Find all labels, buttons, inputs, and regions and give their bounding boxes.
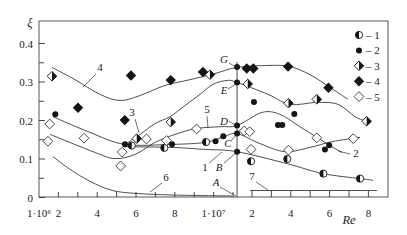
data-point-series-3 (284, 98, 294, 108)
x-tick-label: 6 (133, 207, 139, 219)
data-point-series-2 (279, 122, 285, 128)
annotation-label: 7 (249, 170, 255, 182)
half-diamond-fill (52, 71, 57, 81)
data-point-series-4 (283, 61, 293, 71)
x-tick-label: 1·10⁶ (27, 207, 51, 219)
annotation-label: C (224, 137, 232, 149)
y-tick-label: 0.2 (19, 115, 33, 127)
data-point-series-4 (126, 70, 136, 80)
x-tick-label: 1·10⁷ (202, 207, 226, 219)
data-point-series-2 (122, 141, 128, 147)
annotation-label: B (216, 161, 223, 173)
legend-item-1: – 1 (355, 29, 379, 41)
filled-diamond-icon (166, 75, 176, 85)
filled-circle-icon (234, 131, 240, 137)
filled-circle-icon (122, 141, 128, 147)
half-diamond-fill (171, 117, 176, 127)
data-point-series-5 (142, 134, 152, 144)
legend-marker (354, 61, 364, 71)
legend-item-5: – 5 (354, 91, 380, 103)
annotation-label: 6 (163, 171, 169, 183)
legend-marker (355, 31, 362, 38)
open-diamond-icon (348, 134, 358, 144)
open-diamond-icon (43, 136, 53, 146)
y-tick-label: 0.3 (19, 76, 33, 88)
open-diamond-icon (312, 133, 322, 143)
x-tick-label: 4 (288, 207, 294, 219)
data-point-series-5 (284, 145, 294, 155)
annotation-label: G (220, 53, 228, 65)
filled-diamond-icon (73, 103, 83, 113)
annotation-leader (224, 153, 236, 163)
filled-circle-icon (251, 99, 257, 105)
data-point-series-1 (247, 158, 254, 165)
legend-label: – 3 (365, 60, 380, 72)
annotation-leader (220, 187, 236, 196)
data-point-series-1 (128, 142, 135, 149)
half-diamond-fill (359, 61, 364, 71)
data-point-series-4 (166, 75, 176, 85)
filled-circle-icon (234, 64, 240, 70)
half-diamond-fill (210, 70, 215, 80)
open-diamond-icon (192, 124, 202, 134)
data-point-series-2 (213, 138, 219, 144)
x-tick-label: 4 (94, 207, 100, 219)
curve-2 (53, 117, 360, 152)
legend-item-2: – 2 (356, 44, 380, 56)
data-point-series-4 (73, 103, 83, 113)
legend-label: – 1 (365, 29, 380, 41)
data-point-series-5 (79, 133, 89, 143)
open-diamond-icon (117, 147, 127, 157)
data-point-series-5 (348, 134, 358, 144)
legend-marker (354, 76, 364, 86)
filled-diamond-icon (126, 70, 136, 80)
filled-diamond-icon (283, 61, 293, 71)
data-point-series-2 (52, 111, 58, 117)
open-diamond-icon (79, 133, 89, 143)
data-point-series-2 (234, 131, 240, 137)
annotation-label: 1 (202, 161, 208, 173)
data-point-series-3 (362, 116, 372, 126)
y-axis-title: ξ (27, 16, 33, 30)
open-diamond-icon (116, 161, 126, 171)
annotation-leader (256, 182, 268, 190)
filled-circle-icon (213, 138, 219, 144)
data-point-series-2 (251, 99, 257, 105)
open-diamond-icon (246, 144, 256, 154)
data-point-series-1 (284, 155, 291, 162)
legend-item-3: – 3 (354, 60, 380, 72)
legend-label: – 2 (365, 44, 380, 56)
filled-circle-icon (291, 111, 297, 117)
data-point-series-3 (47, 71, 57, 81)
annotation-label: 5 (204, 103, 210, 115)
filled-diamond-icon (248, 63, 258, 73)
annotation-label: E (220, 84, 228, 96)
data-point-series-3 (166, 117, 176, 127)
data-point-series-2 (234, 64, 240, 70)
data-point-series-2 (326, 142, 332, 148)
open-diamond-icon (142, 134, 152, 144)
annotation-label: 2 (353, 147, 359, 159)
y-tick-label: 0 (28, 192, 34, 204)
data-point-series-5 (192, 124, 202, 134)
annotation-label: 4 (97, 61, 103, 73)
legend-item-4: – 4 (354, 75, 380, 87)
data-point-series-5 (246, 144, 256, 154)
annotation-leader (150, 183, 162, 192)
x-tick-label: 8 (366, 207, 372, 219)
annotation-label: D (219, 115, 228, 127)
y-tick-label: 0.4 (19, 38, 33, 50)
annotation-leader (338, 151, 350, 154)
open-diamond-icon (354, 92, 364, 102)
filled-circle-icon (52, 111, 58, 117)
filled-circle-icon (326, 142, 332, 148)
chart-figure: 00.10.20.30.4 1·10⁶24681·10⁷2468 435GEDC… (0, 0, 407, 235)
annotation-leader (232, 135, 236, 140)
annotation-leader (83, 74, 96, 87)
annotation-label: 3 (129, 106, 135, 118)
half-diamond-fill (367, 116, 372, 126)
open-diamond-icon (45, 119, 55, 129)
y-tick-label: 0.1 (19, 153, 33, 165)
data-point-series-2 (322, 146, 328, 152)
x-axis-title: Re (341, 213, 356, 227)
